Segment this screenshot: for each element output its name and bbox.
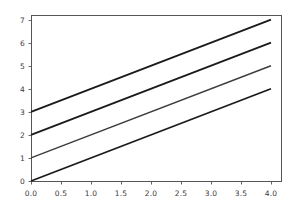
x-tick-label: 3.5 bbox=[235, 189, 248, 198]
plot-background bbox=[0, 0, 301, 216]
y-tick-label: 4 bbox=[8, 84, 25, 93]
y-tick-label: 7 bbox=[8, 15, 25, 24]
y-tick-label: 5 bbox=[8, 61, 25, 70]
x-tick-label: 1.5 bbox=[115, 189, 128, 198]
y-tick-label: 3 bbox=[8, 107, 25, 116]
y-tick-label: 6 bbox=[8, 38, 25, 47]
x-tick-label: 3.0 bbox=[205, 189, 218, 198]
x-tick-label: 2.0 bbox=[145, 189, 158, 198]
y-tick-label: 1 bbox=[8, 153, 25, 162]
chart-figure: 01234567 0.00.51.01.52.02.53.03.54.0 bbox=[0, 0, 301, 216]
x-tick-label: 0.5 bbox=[55, 189, 68, 198]
plot-canvas bbox=[0, 0, 301, 216]
x-tick-label: 1.0 bbox=[85, 189, 98, 198]
x-tick-label: 0.0 bbox=[25, 189, 38, 198]
y-tick-label: 2 bbox=[8, 130, 25, 139]
x-tick-label: 4.0 bbox=[265, 189, 278, 198]
y-tick-label: 0 bbox=[8, 177, 25, 186]
x-tick-label: 2.5 bbox=[175, 189, 188, 198]
